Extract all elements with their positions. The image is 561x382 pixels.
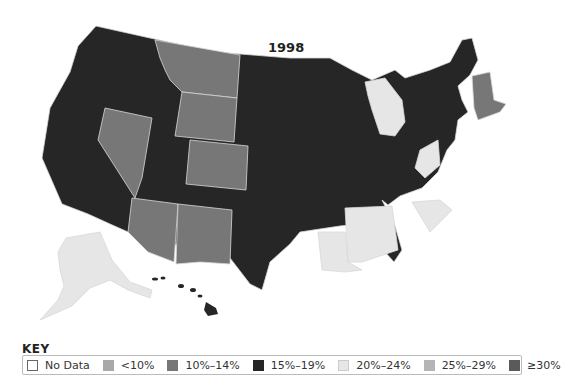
legend-item-no-data: No Data <box>27 359 90 372</box>
state-south-carolina <box>412 200 452 232</box>
legend-label: 25%–29% <box>442 359 496 372</box>
state-arizona <box>128 198 178 262</box>
legend-label: 15%–19% <box>271 359 325 372</box>
legend-label: <10% <box>121 359 155 372</box>
us-choropleth-map <box>0 0 546 340</box>
key-title: KEY <box>22 342 50 356</box>
legend-swatch-15-19 <box>253 360 264 371</box>
legend-label: 20%–24% <box>356 359 410 372</box>
legend-item-10-14: 10%–14% <box>167 359 239 372</box>
state-new-england-gray <box>472 72 506 120</box>
legend-swatch-20-24 <box>338 360 349 371</box>
legend-label: 10%–14% <box>185 359 239 372</box>
state-wyoming <box>175 92 237 142</box>
legend-item-15-19: 15%–19% <box>253 359 325 372</box>
legend-item-20-24: 20%–24% <box>338 359 410 372</box>
legend-label: No Data <box>45 359 90 372</box>
legend-item-gte30: ≥30% <box>509 359 561 372</box>
state-colorado <box>186 140 248 190</box>
legend-swatch-lt10 <box>103 360 114 371</box>
map-legend: No Data <10% 10%–14% 15%–19% 20%–24% 25%… <box>22 355 522 375</box>
legend-item-lt10: <10% <box>103 359 155 372</box>
state-hawaii <box>152 277 218 317</box>
legend-swatch-no-data <box>27 360 38 371</box>
legend-item-25-29: 25%–29% <box>424 359 496 372</box>
state-new-mexico <box>176 204 232 264</box>
legend-swatch-gte30 <box>509 360 520 371</box>
legend-label: ≥30% <box>527 359 561 372</box>
state-alaska <box>40 232 152 320</box>
legend-swatch-25-29 <box>424 360 435 371</box>
legend-swatch-10-14 <box>167 360 178 371</box>
